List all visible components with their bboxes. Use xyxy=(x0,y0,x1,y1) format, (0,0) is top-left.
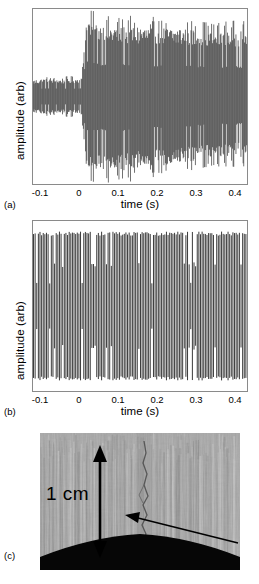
panel-b-xlabel: time (s) xyxy=(32,405,248,417)
panel-b-xtick-5: 0.4 xyxy=(228,394,241,405)
panel-b-xtick-2: 0.1 xyxy=(111,394,124,405)
panel-c: 1 cm (c) xyxy=(0,430,259,584)
panel-a-waveform xyxy=(33,9,247,184)
panel-a-ylabel: amplitude (arb) xyxy=(14,81,26,160)
panel-b-plot-frame xyxy=(32,220,248,392)
panel-b-letter: (b) xyxy=(4,406,16,417)
panel-a-xtick-2: 0.1 xyxy=(111,187,124,198)
panel-a-xtick-3: 0.2 xyxy=(150,187,163,198)
panel-a-xtick-1: 0 xyxy=(76,187,81,198)
panel-b-ylabel: amplitude (arb) xyxy=(14,301,26,380)
panel-b-xtick-1: 0 xyxy=(76,394,81,405)
panel-b-xtick-0: -0.1 xyxy=(32,394,48,405)
figure-container: amplitude (arb) -0.1 0 0.1 0.2 0.3 0.4 t… xyxy=(0,0,259,584)
panel-a: amplitude (arb) -0.1 0 0.1 0.2 0.3 0.4 t… xyxy=(0,0,259,210)
panel-a-letter: (a) xyxy=(4,199,16,210)
panel-a-xtick-5: 0.4 xyxy=(228,187,241,198)
panel-a-xtick-4: 0.3 xyxy=(189,187,202,198)
panel-b-xtick-3: 0.2 xyxy=(150,394,163,405)
panel-c-letter: (c) xyxy=(4,550,15,561)
scale-bar-label: 1 cm xyxy=(46,483,89,505)
panel-b-waveform xyxy=(33,221,247,391)
panel-a-xlabel: time (s) xyxy=(32,198,248,210)
panel-c-photo: 1 cm xyxy=(40,433,240,570)
panel-b: amplitude (arb) -0.1 0 0.1 0.2 0.3 0.4 t… xyxy=(0,212,259,422)
panel-a-plot-frame xyxy=(32,8,248,185)
panel-a-xtick-0: -0.1 xyxy=(32,187,48,198)
panel-b-xtick-4: 0.3 xyxy=(189,394,202,405)
